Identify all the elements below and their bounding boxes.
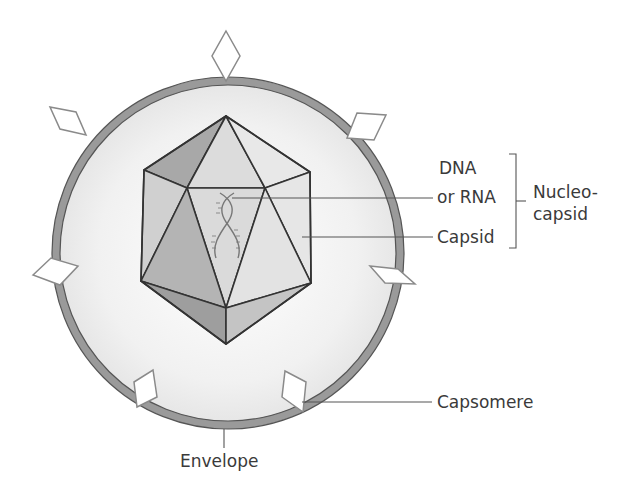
label-capsomere: Capsomere: [437, 391, 533, 413]
virus-diagram-graphic: [0, 0, 634, 488]
capsomere-upper-right: [347, 113, 386, 140]
label-or-rna: or RNA: [437, 186, 496, 208]
virus-diagram: DNA or RNA Capsid Nucleo- capsid Capsome…: [0, 0, 634, 488]
capsomere-top: [212, 31, 240, 81]
label-envelope: Envelope: [180, 450, 258, 472]
label-capsid: Capsid: [437, 226, 494, 248]
label-dna: DNA: [439, 157, 476, 179]
label-nucleocapsid-line1: Nucleo-: [533, 181, 598, 203]
label-nucleocapsid-line2: capsid: [533, 203, 588, 225]
capsomere-upper-left: [50, 107, 86, 135]
nucleocapsid-bracket: [509, 154, 516, 248]
